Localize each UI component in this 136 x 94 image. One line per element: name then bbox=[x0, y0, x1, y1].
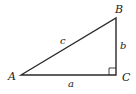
vertex-label-c: C bbox=[122, 71, 131, 84]
right-triangle-diagram: A B C c b a bbox=[0, 0, 136, 94]
vertex-label-b: B bbox=[114, 3, 123, 16]
side-label-c: c bbox=[60, 35, 66, 46]
right-angle-marker bbox=[109, 68, 116, 75]
triangle-outline bbox=[21, 18, 116, 75]
side-label-b: b bbox=[120, 40, 126, 51]
side-label-a: a bbox=[68, 78, 74, 89]
vertex-label-a: A bbox=[7, 70, 16, 83]
